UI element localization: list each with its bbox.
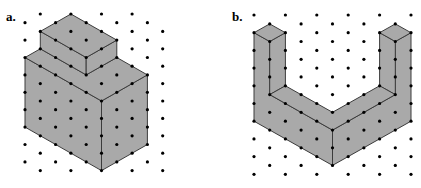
grid-dot bbox=[315, 137, 318, 140]
grid-dot bbox=[300, 40, 303, 43]
grid-dot bbox=[268, 146, 271, 149]
grid-dot bbox=[378, 67, 381, 70]
grid-dot bbox=[284, 137, 287, 140]
grid-dot bbox=[252, 120, 255, 123]
grid-dot bbox=[331, 22, 334, 25]
grid-dot bbox=[284, 120, 287, 123]
grid-dot bbox=[268, 75, 271, 78]
grid-dot bbox=[378, 31, 381, 34]
grid-dot bbox=[268, 58, 271, 61]
grid-dot bbox=[394, 111, 397, 114]
grid-dot bbox=[284, 31, 287, 34]
grid-dot bbox=[394, 164, 397, 167]
grid-dot bbox=[331, 93, 334, 96]
grid-dot bbox=[315, 155, 318, 158]
grid-dot bbox=[300, 58, 303, 61]
grid-dot bbox=[347, 49, 350, 52]
grid-dot bbox=[300, 93, 303, 96]
grid-dot bbox=[315, 102, 318, 105]
grid-dot bbox=[409, 155, 412, 158]
grid-dot bbox=[347, 120, 350, 123]
grid-dot bbox=[331, 40, 334, 43]
grid-dot bbox=[284, 173, 287, 176]
grid-dot bbox=[409, 173, 412, 176]
left-pillar-inner-face bbox=[270, 33, 286, 95]
grid-dot bbox=[315, 31, 318, 34]
grid-dot bbox=[409, 31, 412, 34]
grid-dot bbox=[284, 13, 287, 16]
grid-dot bbox=[347, 31, 350, 34]
grid-dot bbox=[300, 164, 303, 167]
grid-dot bbox=[284, 67, 287, 70]
grid-dot bbox=[331, 58, 334, 61]
grid-dot bbox=[409, 67, 412, 70]
grid-dot bbox=[300, 75, 303, 78]
grid-dot bbox=[252, 102, 255, 105]
grid-dot bbox=[300, 22, 303, 25]
grid-dot bbox=[362, 75, 365, 78]
grid-dot bbox=[252, 173, 255, 176]
grid-dot bbox=[394, 58, 397, 61]
grid-dot bbox=[315, 49, 318, 52]
grid-dot bbox=[315, 84, 318, 87]
grid-dot bbox=[378, 173, 381, 176]
grid-dot bbox=[268, 22, 271, 25]
grid-dot bbox=[315, 120, 318, 123]
grid-dot bbox=[347, 67, 350, 70]
grid-dot bbox=[409, 13, 412, 16]
panel-b: b. bbox=[0, 0, 421, 188]
grid-dot bbox=[409, 137, 412, 140]
grid-dot bbox=[409, 120, 412, 123]
grid-dot bbox=[378, 137, 381, 140]
grid-dot bbox=[284, 155, 287, 158]
grid-dot bbox=[284, 102, 287, 105]
grid-dot bbox=[268, 164, 271, 167]
grid-dot bbox=[394, 146, 397, 149]
grid-dot bbox=[347, 13, 350, 16]
grid-dot bbox=[347, 102, 350, 105]
grid-dot bbox=[284, 49, 287, 52]
grid-dot bbox=[331, 164, 334, 167]
grid-dot bbox=[300, 129, 303, 132]
grid-dot bbox=[409, 102, 412, 105]
grid-dot bbox=[347, 84, 350, 87]
grid-dot bbox=[378, 102, 381, 105]
grid-dot bbox=[362, 93, 365, 96]
grid-dot bbox=[394, 75, 397, 78]
grid-dot bbox=[378, 49, 381, 52]
grid-dot bbox=[268, 93, 271, 96]
grid-dot bbox=[331, 111, 334, 114]
grid-dot bbox=[347, 173, 350, 176]
grid-dot bbox=[315, 13, 318, 16]
grid-dot bbox=[331, 129, 334, 132]
grid-dot bbox=[394, 93, 397, 96]
grid-dot bbox=[252, 137, 255, 140]
grid-dot bbox=[315, 173, 318, 176]
grid-dot bbox=[252, 49, 255, 52]
grid-dot bbox=[378, 13, 381, 16]
grid-dot bbox=[347, 155, 350, 158]
grid-dot bbox=[252, 84, 255, 87]
grid-dot bbox=[268, 40, 271, 43]
grid-dot bbox=[394, 22, 397, 25]
grid-dot bbox=[347, 137, 350, 140]
grid-dot bbox=[362, 129, 365, 132]
grid-dot bbox=[394, 129, 397, 132]
grid-dot bbox=[300, 111, 303, 114]
grid-dot bbox=[394, 40, 397, 43]
right-pillar-inner-face bbox=[380, 33, 396, 95]
grid-dot bbox=[378, 84, 381, 87]
grid-dot bbox=[284, 84, 287, 87]
grid-dot bbox=[252, 155, 255, 158]
grid-dot bbox=[362, 40, 365, 43]
grid-dot bbox=[362, 146, 365, 149]
grid-dot bbox=[362, 58, 365, 61]
grid-dot bbox=[409, 49, 412, 52]
grid-dot bbox=[331, 146, 334, 149]
grid-dot bbox=[268, 129, 271, 132]
grid-dot bbox=[378, 155, 381, 158]
grid-dot bbox=[252, 67, 255, 70]
grid-dot bbox=[331, 75, 334, 78]
grid-dot bbox=[409, 84, 412, 87]
grid-dot bbox=[315, 67, 318, 70]
